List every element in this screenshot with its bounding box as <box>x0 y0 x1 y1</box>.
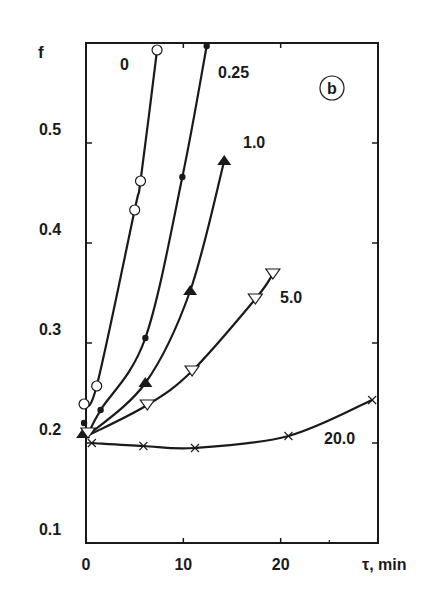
curve-label: 20.0 <box>324 430 355 447</box>
y-tick-label: 0.4 <box>39 221 61 238</box>
marker-open-circle <box>79 399 89 409</box>
marker-open-circle <box>92 381 102 391</box>
x-axis-title-text: τ, min <box>362 556 406 573</box>
axis-labels: f τ, min <box>38 43 406 573</box>
chart: 0.10.20.30.40.501020 f τ, min 00.251.05.… <box>0 0 433 606</box>
x-axis-title: τ, min <box>362 556 406 573</box>
panel-label-text: b <box>327 80 337 97</box>
panel-label: b <box>320 76 344 100</box>
curve-label: 0.25 <box>218 64 249 81</box>
marker-open-triangle-down <box>266 269 280 279</box>
marker-filled-circle <box>142 335 148 341</box>
curve-labels: 00.251.05.020.0 <box>120 56 355 447</box>
marker-open-circle <box>130 205 140 215</box>
data-markers <box>76 43 376 452</box>
curve-0_25 <box>87 46 207 436</box>
marker-filled-circle <box>97 407 103 413</box>
marker-x <box>368 396 376 404</box>
marker-filled-circle <box>81 420 87 426</box>
marker-filled-circle <box>179 174 185 180</box>
marker-filled-triangle-up <box>138 377 152 387</box>
data-curves <box>84 46 372 449</box>
plot-border <box>86 43 378 543</box>
y-tick-label: 0.3 <box>39 321 61 338</box>
curve-label: 5.0 <box>280 289 302 306</box>
y-tick-label: 0.2 <box>39 421 61 438</box>
marker-open-circle <box>152 45 162 55</box>
marker-filled-triangle-up <box>183 285 197 295</box>
x-tick-label: 10 <box>174 556 192 573</box>
x-tick-label: 20 <box>272 556 290 573</box>
marker-filled-circle <box>203 43 209 49</box>
marker-open-triangle-down <box>248 294 262 304</box>
x-tick-label: 0 <box>82 556 91 573</box>
y-axis-title: f <box>38 43 44 62</box>
curve-label: 0 <box>120 56 129 73</box>
plot-frame <box>86 43 378 543</box>
axis-ticks: 0.10.20.30.40.501020 <box>39 43 378 573</box>
curve-0 <box>84 50 157 406</box>
y-tick-label: 0.5 <box>39 121 61 138</box>
y-tick-label: 0.1 <box>39 521 61 538</box>
curve-5_0 <box>87 274 273 436</box>
marker-open-circle <box>136 176 146 186</box>
marker-filled-triangle-up <box>217 155 231 165</box>
curve-label: 1.0 <box>243 134 265 151</box>
